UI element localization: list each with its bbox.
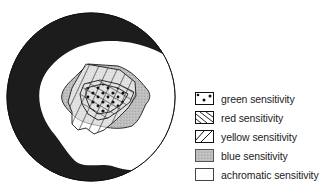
legend-label: blue sensitivity (221, 150, 288, 162)
legend-item-blue: blue sensitivity (195, 146, 324, 165)
legend-label: green sensitivity (221, 93, 295, 105)
gray-stipple-swatch-icon (195, 149, 214, 162)
dots-swatch-icon (195, 92, 214, 105)
legend-label: yellow sensitivity (221, 131, 297, 143)
blank-swatch-icon (195, 168, 214, 181)
legend-label: red sensitivity (221, 112, 283, 124)
legend-item-yellow: yellow sensitivity (195, 127, 324, 146)
slash-hatch-swatch-icon (195, 130, 214, 143)
backslash-hatch-swatch-icon (195, 111, 214, 124)
legend: green sensitivity red sensitivity yellow… (195, 89, 324, 184)
sensitivity-diagram (0, 0, 190, 196)
legend-label: achromatic sensitivity (221, 169, 319, 181)
legend-item-achromatic: achromatic sensitivity (195, 165, 324, 184)
legend-item-green: green sensitivity (195, 89, 324, 108)
legend-item-red: red sensitivity (195, 108, 324, 127)
